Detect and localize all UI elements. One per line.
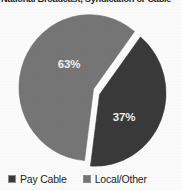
legend-item-label: Pay Cable <box>20 173 67 185</box>
pie-label-pay-cable: 37% <box>113 111 135 123</box>
chart-legend: Pay Cable Local/Other <box>0 169 182 189</box>
legend-item-label: Local/Other <box>95 173 147 185</box>
page-title: National Broadcast, Syndication or Cable <box>1 0 182 5</box>
legend-item-local-other[interactable]: Local/Other <box>83 173 147 185</box>
pie-chart-area: 63% 37% <box>0 8 182 168</box>
pie-label-local-other: 63% <box>58 58 80 70</box>
legend-item-pay-cable[interactable]: Pay Cable <box>8 173 67 185</box>
pie-chart-figure: National Broadcast, Syndication or Cable… <box>0 0 182 190</box>
legend-swatch-icon <box>83 175 91 183</box>
legend-swatch-icon <box>8 175 16 183</box>
pie-chart-svg: 63% 37% <box>0 8 182 168</box>
